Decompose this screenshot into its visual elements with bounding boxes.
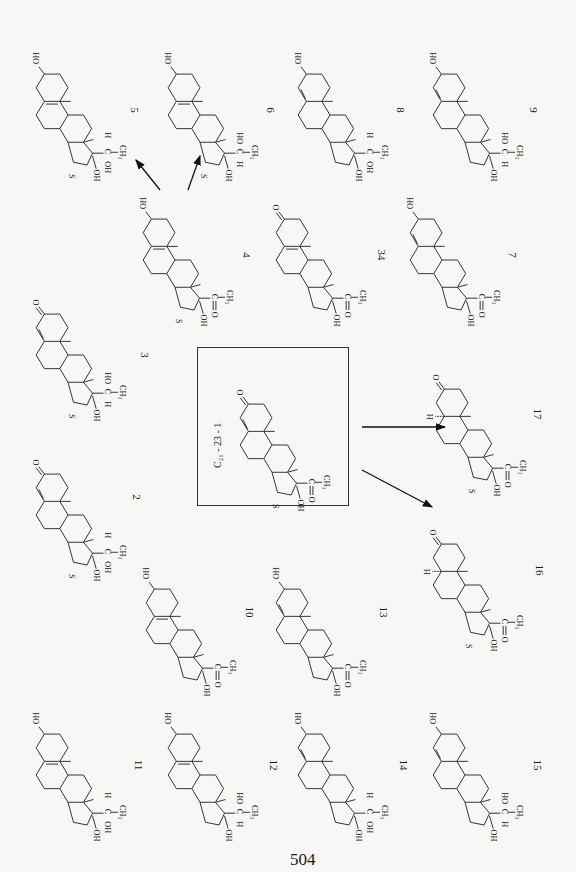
page-number: 504: [290, 850, 316, 870]
arrow-4-to-6: [188, 156, 200, 190]
reaction-arrows: [0, 0, 576, 872]
arrow-4-to-5: [136, 160, 160, 190]
arrow-parent-to-16: [362, 470, 432, 507]
